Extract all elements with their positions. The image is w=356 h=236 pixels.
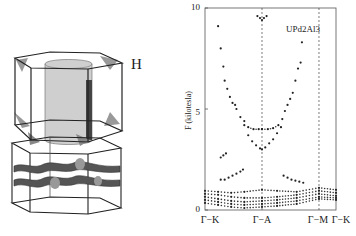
data-point <box>243 124 245 126</box>
y-tick-10: 10 <box>184 2 200 12</box>
data-point <box>296 200 298 202</box>
data-point <box>261 197 263 199</box>
data-point <box>268 142 270 144</box>
data-point <box>261 206 263 208</box>
data-point <box>217 198 219 200</box>
data-point <box>220 179 222 181</box>
data-point <box>261 19 263 21</box>
data-point <box>298 181 300 183</box>
data-point <box>230 203 232 205</box>
data-point <box>256 15 258 17</box>
data-point <box>261 189 263 191</box>
data-point <box>239 171 241 173</box>
data-point <box>301 41 303 43</box>
data-point <box>222 65 224 67</box>
data-point <box>229 96 231 98</box>
data-point <box>259 147 261 149</box>
data-point <box>318 196 320 198</box>
data-point <box>286 177 288 179</box>
data-point <box>335 199 337 201</box>
data-point <box>280 126 282 128</box>
data-point <box>230 192 232 194</box>
data-point <box>318 193 320 195</box>
data-point <box>286 104 288 106</box>
data-point <box>243 191 245 193</box>
data-point <box>264 146 266 148</box>
data-point <box>335 189 337 191</box>
fermi-surface-drawing <box>0 0 190 236</box>
data-point <box>227 177 229 179</box>
data-point <box>220 156 222 158</box>
data-point <box>243 197 245 199</box>
data-point <box>289 98 291 100</box>
data-point <box>217 201 219 203</box>
data-point <box>204 193 206 195</box>
data-point <box>294 80 296 82</box>
data-point <box>222 154 224 156</box>
data-point <box>239 116 241 118</box>
data-point <box>276 196 278 198</box>
data-point <box>255 144 257 146</box>
upper-brillouin-zone <box>14 52 122 146</box>
data-point <box>263 17 265 19</box>
lower-brillouin-zone <box>12 137 121 214</box>
data-point <box>281 118 283 120</box>
data-point <box>230 200 232 202</box>
data-point <box>335 192 337 194</box>
data-point <box>272 138 274 140</box>
data-point <box>235 108 237 110</box>
data-point <box>261 203 263 205</box>
data-point <box>217 204 219 206</box>
x-tick-gamma-k: Γ−K <box>201 214 220 225</box>
data-point <box>204 196 206 198</box>
data-point <box>204 199 206 201</box>
data-point <box>276 190 278 192</box>
data-point <box>252 128 254 130</box>
data-point <box>276 132 278 134</box>
data-point <box>261 128 263 130</box>
data-point <box>292 92 294 94</box>
data-point <box>258 128 260 130</box>
data-point <box>226 88 228 90</box>
data-point <box>231 175 233 177</box>
data-point <box>234 104 236 106</box>
dhva-frequency-chart: 10 5 0 F (kilotesla) UPd2Al3 Γ−K Γ−A Γ−M… <box>180 0 356 236</box>
data-point <box>235 173 237 175</box>
data-point <box>225 152 227 154</box>
data-point <box>217 194 219 196</box>
data-point <box>224 80 226 82</box>
x-tick-gamma-k-end: Γ−K <box>332 214 351 225</box>
data-point <box>204 202 206 204</box>
data-point <box>297 68 299 70</box>
data-point <box>259 17 261 19</box>
data-point <box>276 199 278 201</box>
data-point <box>217 191 219 193</box>
data-point <box>300 61 302 63</box>
data-point <box>217 25 219 27</box>
data-point <box>230 196 232 198</box>
data-point <box>284 110 286 112</box>
data-point <box>265 15 267 17</box>
data-point <box>247 126 249 128</box>
data-point <box>204 190 206 192</box>
data-point <box>247 134 249 136</box>
data-point <box>243 120 245 122</box>
x-tick-gamma-m: Γ−M <box>308 214 328 225</box>
data-point <box>335 197 337 199</box>
data-point <box>251 140 253 142</box>
y-tick-0: 0 <box>184 204 200 214</box>
data-point <box>277 124 279 126</box>
data-point <box>302 182 304 184</box>
fermi-sheet-label: H <box>131 56 142 73</box>
data-point <box>231 102 233 104</box>
data-point <box>243 204 245 206</box>
data-point <box>318 190 320 192</box>
data-point <box>283 175 285 177</box>
y-axis-label: F (kilotesla) <box>184 91 193 130</box>
data-point <box>261 200 263 202</box>
data-point <box>230 206 232 208</box>
data-point <box>296 194 298 196</box>
data-point <box>267 128 269 130</box>
data-point <box>296 191 298 193</box>
data-point <box>276 205 278 207</box>
